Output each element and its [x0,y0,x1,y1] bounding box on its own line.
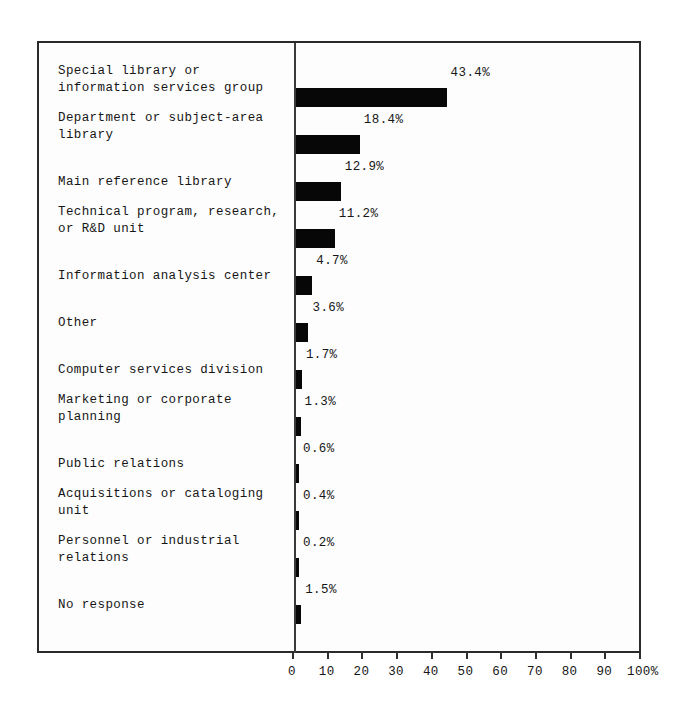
bar-row: Special library or information services … [39,64,643,111]
x-axis-tick-labels: 0102030405060708090100% [37,664,677,686]
bar-track [296,464,299,483]
x-axis-tick-label: 20 [353,664,369,680]
x-axis-tick-label: 40 [423,664,439,680]
bar-track [296,135,360,154]
bar-row: Personnel or industrial relations0.2% [39,534,643,581]
bar-value-label: 3.6% [312,301,344,316]
bar[interactable] [296,135,360,154]
bar-category-label: Information analysis center [58,268,288,285]
bar-category-label: Other [58,315,288,332]
bar[interactable] [296,276,312,295]
plot-frame: Special library or information services … [37,41,641,653]
bar[interactable] [296,229,335,248]
bar[interactable] [296,370,302,389]
x-axis-tick [361,651,363,659]
bar-rows-container: Special library or information services … [39,43,643,655]
bar-value-label: 0.2% [303,536,335,551]
bar-value-label: 0.4% [303,489,335,504]
bar-category-label: Public relations [58,456,288,473]
bar-category-label: No response [58,597,288,614]
bar-track [296,558,299,577]
bar-track [296,605,301,624]
bar-value-label: 0.6% [303,442,335,457]
bar-value-label: 12.9% [345,160,385,175]
bar-category-label: Main reference library [58,174,288,191]
bar[interactable] [296,464,299,483]
bar-row: Information analysis center4.7% [39,252,643,299]
x-axis-tick [396,651,398,659]
x-axis-tick-label: 100% [627,664,659,680]
bar-track [296,229,335,248]
x-axis-tick [466,651,468,659]
bar-value-label: 18.4% [364,113,404,128]
bar-track [296,88,447,107]
bar[interactable] [296,88,447,107]
bar-track [296,370,302,389]
bar-value-label: 4.7% [316,254,348,269]
bar-track [296,511,299,530]
x-axis-tick-label: 70 [527,664,543,680]
x-axis-tick [639,651,641,659]
bar-value-label: 1.5% [305,583,337,598]
x-axis-tick-label: 80 [562,664,578,680]
bar-chart-figure: Special library or information services … [0,0,682,717]
bar-value-label: 43.4% [451,66,491,81]
bar-track [296,276,312,295]
x-axis-tick-label: 60 [492,664,508,680]
bar-track [296,417,301,436]
bar-value-label: 11.2% [339,207,379,222]
x-axis-tick-label: 30 [388,664,404,680]
x-axis-tick [604,651,606,659]
x-axis-tick [500,651,502,659]
x-axis-tick-label: 50 [458,664,474,680]
bar-value-label: 1.3% [305,395,337,410]
bar-category-label: Special library or information services … [58,63,288,97]
bar-category-label: Computer services division [58,362,288,379]
x-axis-tick-label: 0 [288,664,296,680]
bar-row: Marketing or corporate planning1.3% [39,393,643,440]
x-axis-tick [431,651,433,659]
bar-track [296,323,308,342]
x-axis-tick [327,651,329,659]
bar-category-label: Marketing or corporate planning [58,392,288,426]
x-axis-tick-label: 90 [596,664,612,680]
bar-row: Department or subject-area library18.4% [39,111,643,158]
x-axis-tick-label: 10 [319,664,335,680]
bar[interactable] [296,417,301,436]
bar[interactable] [296,558,299,577]
bar-track [296,182,341,201]
bar-category-label: Personnel or industrial relations [58,533,288,567]
x-axis-tick [570,651,572,659]
bar-row: Other3.6% [39,299,643,346]
bar-row: Main reference library12.9% [39,158,643,205]
bar-category-label: Department or subject-area library [58,110,288,144]
x-axis-tick [535,651,537,659]
bar-row: Acquisitions or cataloging unit0.4% [39,487,643,534]
bar-category-label: Technical program, research, or R&D unit [58,204,288,238]
bar[interactable] [296,182,341,201]
bar-row: Technical program, research, or R&D unit… [39,205,643,252]
bar-category-label: Acquisitions or cataloging unit [58,486,288,520]
x-axis-tick [292,651,294,659]
bar-row: Computer services division1.7% [39,346,643,393]
bar-row: Public relations0.6% [39,440,643,487]
bar-value-label: 1.7% [306,348,338,363]
bar[interactable] [296,511,299,530]
bar-row: No response1.5% [39,581,643,628]
bar[interactable] [296,323,308,342]
x-axis-tick-marks [37,651,641,661]
bar[interactable] [296,605,301,624]
